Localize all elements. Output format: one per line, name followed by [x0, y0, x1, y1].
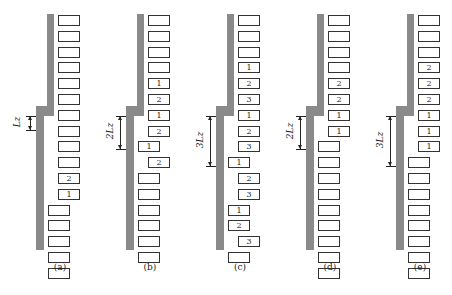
brick: 2: [148, 94, 170, 105]
brick: 1: [238, 62, 260, 73]
brick: [328, 62, 350, 73]
panel-c: 1231231231233Lz(c): [180, 0, 270, 295]
dimension-label: 3Lz: [375, 131, 385, 147]
brick: [418, 15, 440, 26]
brick: 1: [418, 126, 440, 137]
brick: 1: [238, 110, 260, 121]
brick: [318, 205, 340, 216]
brick: 2: [238, 173, 260, 184]
brick: [148, 15, 170, 26]
dimension-tick: [206, 166, 216, 167]
brick: [328, 15, 350, 26]
upper-wall: [47, 14, 54, 116]
brick: [48, 220, 70, 231]
brick: 1: [228, 205, 250, 216]
brick: [58, 126, 80, 137]
brick: [58, 157, 80, 168]
brick: [58, 110, 80, 121]
brick: [318, 189, 340, 200]
brick: 2: [418, 78, 440, 89]
upper-wall: [227, 14, 234, 116]
brick: [318, 141, 340, 152]
brick: 2: [418, 94, 440, 105]
brick: 2: [418, 62, 440, 73]
brick: [58, 47, 80, 58]
brick: [58, 31, 80, 42]
brick: 1: [328, 126, 350, 137]
brick: [138, 220, 160, 231]
dimension-line: [390, 116, 391, 166]
brick: 1: [328, 110, 350, 121]
dimension-line: [210, 116, 211, 166]
brick: [318, 157, 340, 168]
brick: [328, 31, 350, 42]
brick: 3: [238, 236, 260, 247]
arrow-up-icon: [388, 116, 392, 120]
brick: [238, 47, 260, 58]
arrow-up-icon: [208, 116, 212, 120]
panel-b: 1212122Lz(b): [90, 0, 180, 295]
figure: 21Lz(a)1212122Lz(b)1231231231233Lz(c)221…: [0, 0, 452, 295]
brick: [48, 205, 70, 216]
brick: [408, 157, 430, 168]
brick: 2: [148, 157, 170, 168]
brick: 1: [58, 189, 80, 200]
arrow-down-icon: [118, 145, 122, 149]
panel-caption: (c): [220, 262, 260, 272]
panel-a: 21Lz(a): [0, 0, 90, 295]
dimension-label: 2Lz: [105, 123, 115, 139]
arrow-down-icon: [208, 162, 212, 166]
dimension-label: Lz: [12, 117, 22, 128]
brick: [58, 78, 80, 89]
brick: 2: [58, 173, 80, 184]
lower-wall: [216, 106, 224, 250]
brick: [148, 47, 170, 58]
brick: [138, 205, 160, 216]
panel-caption: (a): [40, 262, 80, 272]
brick: 2: [148, 126, 170, 137]
brick: [408, 236, 430, 247]
brick: 1: [418, 141, 440, 152]
brick: 3: [238, 189, 260, 200]
brick: 1: [418, 110, 440, 121]
arrow-down-icon: [28, 126, 32, 130]
panel-caption: (d): [310, 262, 350, 272]
brick: [318, 173, 340, 184]
brick: [408, 189, 430, 200]
panel-caption: (b): [130, 262, 170, 272]
brick: 3: [238, 94, 260, 105]
brick: [138, 189, 160, 200]
dimension-label: 2Lz: [285, 123, 295, 139]
brick: [138, 173, 160, 184]
brick: 2: [328, 94, 350, 105]
brick: 1: [148, 110, 170, 121]
brick: [58, 141, 80, 152]
brick: [58, 15, 80, 26]
brick: 2: [228, 220, 250, 231]
panel-d: 22112Lz(d): [270, 0, 360, 295]
brick: [318, 220, 340, 231]
brick: [138, 236, 160, 247]
arrow-down-icon: [298, 145, 302, 149]
brick: [408, 205, 430, 216]
brick: 1: [148, 78, 170, 89]
brick: [48, 236, 70, 247]
dimension-tick: [26, 130, 36, 131]
brick: 2: [328, 78, 350, 89]
arrow-up-icon: [118, 116, 122, 120]
brick: [58, 94, 80, 105]
brick: [418, 47, 440, 58]
arrow-up-icon: [298, 116, 302, 120]
brick: [58, 62, 80, 73]
brick: [318, 236, 340, 247]
upper-wall: [317, 14, 324, 116]
brick: [418, 31, 440, 42]
brick: [408, 173, 430, 184]
lower-wall: [396, 106, 404, 250]
upper-wall: [137, 14, 144, 116]
upper-wall: [407, 14, 414, 116]
brick: 2: [238, 78, 260, 89]
dimension-tick: [116, 149, 126, 150]
brick: [148, 62, 170, 73]
brick: [238, 15, 260, 26]
